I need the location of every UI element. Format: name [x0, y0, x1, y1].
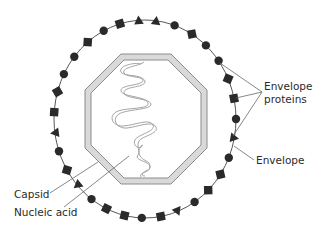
envelope-protein-triangle-marker	[172, 206, 184, 218]
envelope-protein-circle-marker	[170, 21, 178, 29]
virus-diagram: Envelope proteins Envelope Capsid Nuclei…	[0, 0, 324, 229]
envelope-protein-square-marker	[101, 203, 112, 214]
label-envelope: Envelope	[256, 154, 304, 166]
envelope-protein-diamond-marker	[187, 29, 197, 39]
envelope-protein-square-marker	[115, 19, 126, 30]
label-envelope-proteins-line1: Envelope	[264, 80, 312, 92]
envelope-protein-circle-marker	[138, 214, 146, 222]
envelope-protein-circle-marker	[100, 27, 108, 35]
envelope-protein-circle-marker	[87, 195, 95, 203]
envelope-protein-diamond-marker	[52, 86, 63, 97]
envelope-protein-square-marker	[50, 108, 59, 117]
envelope-protein-circle-marker	[60, 70, 68, 78]
capsid-inner-wall	[91, 60, 201, 178]
envelope-protein-square-marker	[119, 210, 129, 220]
leader-capsid	[50, 162, 98, 193]
label-nucleic-acid: Nucleic acid	[14, 206, 77, 218]
label-envelope-proteins-line2: proteins	[264, 93, 307, 105]
leader-envelope	[234, 146, 254, 160]
envelope-protein-circle-marker	[55, 147, 63, 155]
envelope-protein-diamond-marker	[62, 165, 72, 175]
envelope-protein-square-marker	[156, 212, 166, 222]
envelope-protein-circle-marker	[232, 115, 240, 123]
envelope-protein-diamond-marker	[204, 186, 213, 195]
envelope-protein-circle-marker	[225, 154, 233, 162]
envelope-protein-diamond-marker	[223, 73, 234, 84]
envelope-protein-circle-marker	[190, 198, 198, 206]
envelope-protein-diamond-marker	[83, 38, 92, 47]
envelope-protein-square-marker	[229, 93, 239, 103]
envelope-protein-circle-marker	[202, 41, 210, 49]
envelope-protein-diamond-marker	[215, 169, 225, 179]
leader-envelope-proteins-2	[236, 92, 262, 98]
capsid	[85, 54, 207, 184]
envelope-protein-circle-marker	[70, 53, 78, 61]
label-capsid: Capsid	[14, 188, 49, 200]
